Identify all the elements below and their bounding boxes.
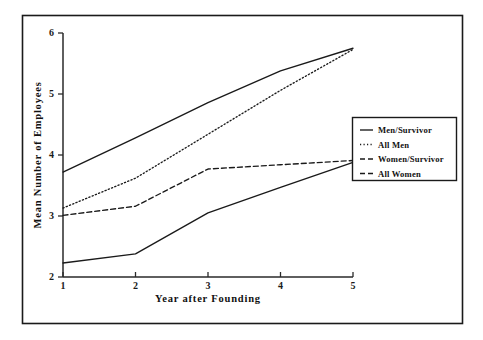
x-tick-label: 4 bbox=[278, 280, 283, 291]
y-tick-label: 6 bbox=[49, 27, 54, 38]
y-axis-title: Mean Number of Employees bbox=[32, 81, 43, 228]
x-axis-title: Year after Founding bbox=[155, 293, 261, 304]
x-tick-label: 2 bbox=[133, 280, 138, 291]
y-tick-label: 3 bbox=[49, 210, 54, 221]
y-tick-label: 4 bbox=[49, 149, 54, 160]
x-tick-label: 1 bbox=[61, 280, 66, 291]
x-tick-label: 5 bbox=[351, 280, 356, 291]
legend-label-0: Men/Survivor bbox=[378, 125, 432, 135]
x-tick-label: 3 bbox=[206, 280, 211, 291]
legend: Men/SurvivorAll MenWomen/SurvivorAll Wom… bbox=[353, 118, 457, 181]
legend-label-2: Women/Survivor bbox=[378, 154, 444, 164]
y-tick-label: 5 bbox=[49, 88, 54, 99]
legend-label-3: All Women bbox=[378, 169, 421, 179]
legend-label-1: All Men bbox=[378, 140, 409, 150]
y-tick-label: 2 bbox=[49, 271, 54, 282]
chart-figure: 23456 Mean Number of Employees 12345 Yea… bbox=[0, 0, 483, 340]
